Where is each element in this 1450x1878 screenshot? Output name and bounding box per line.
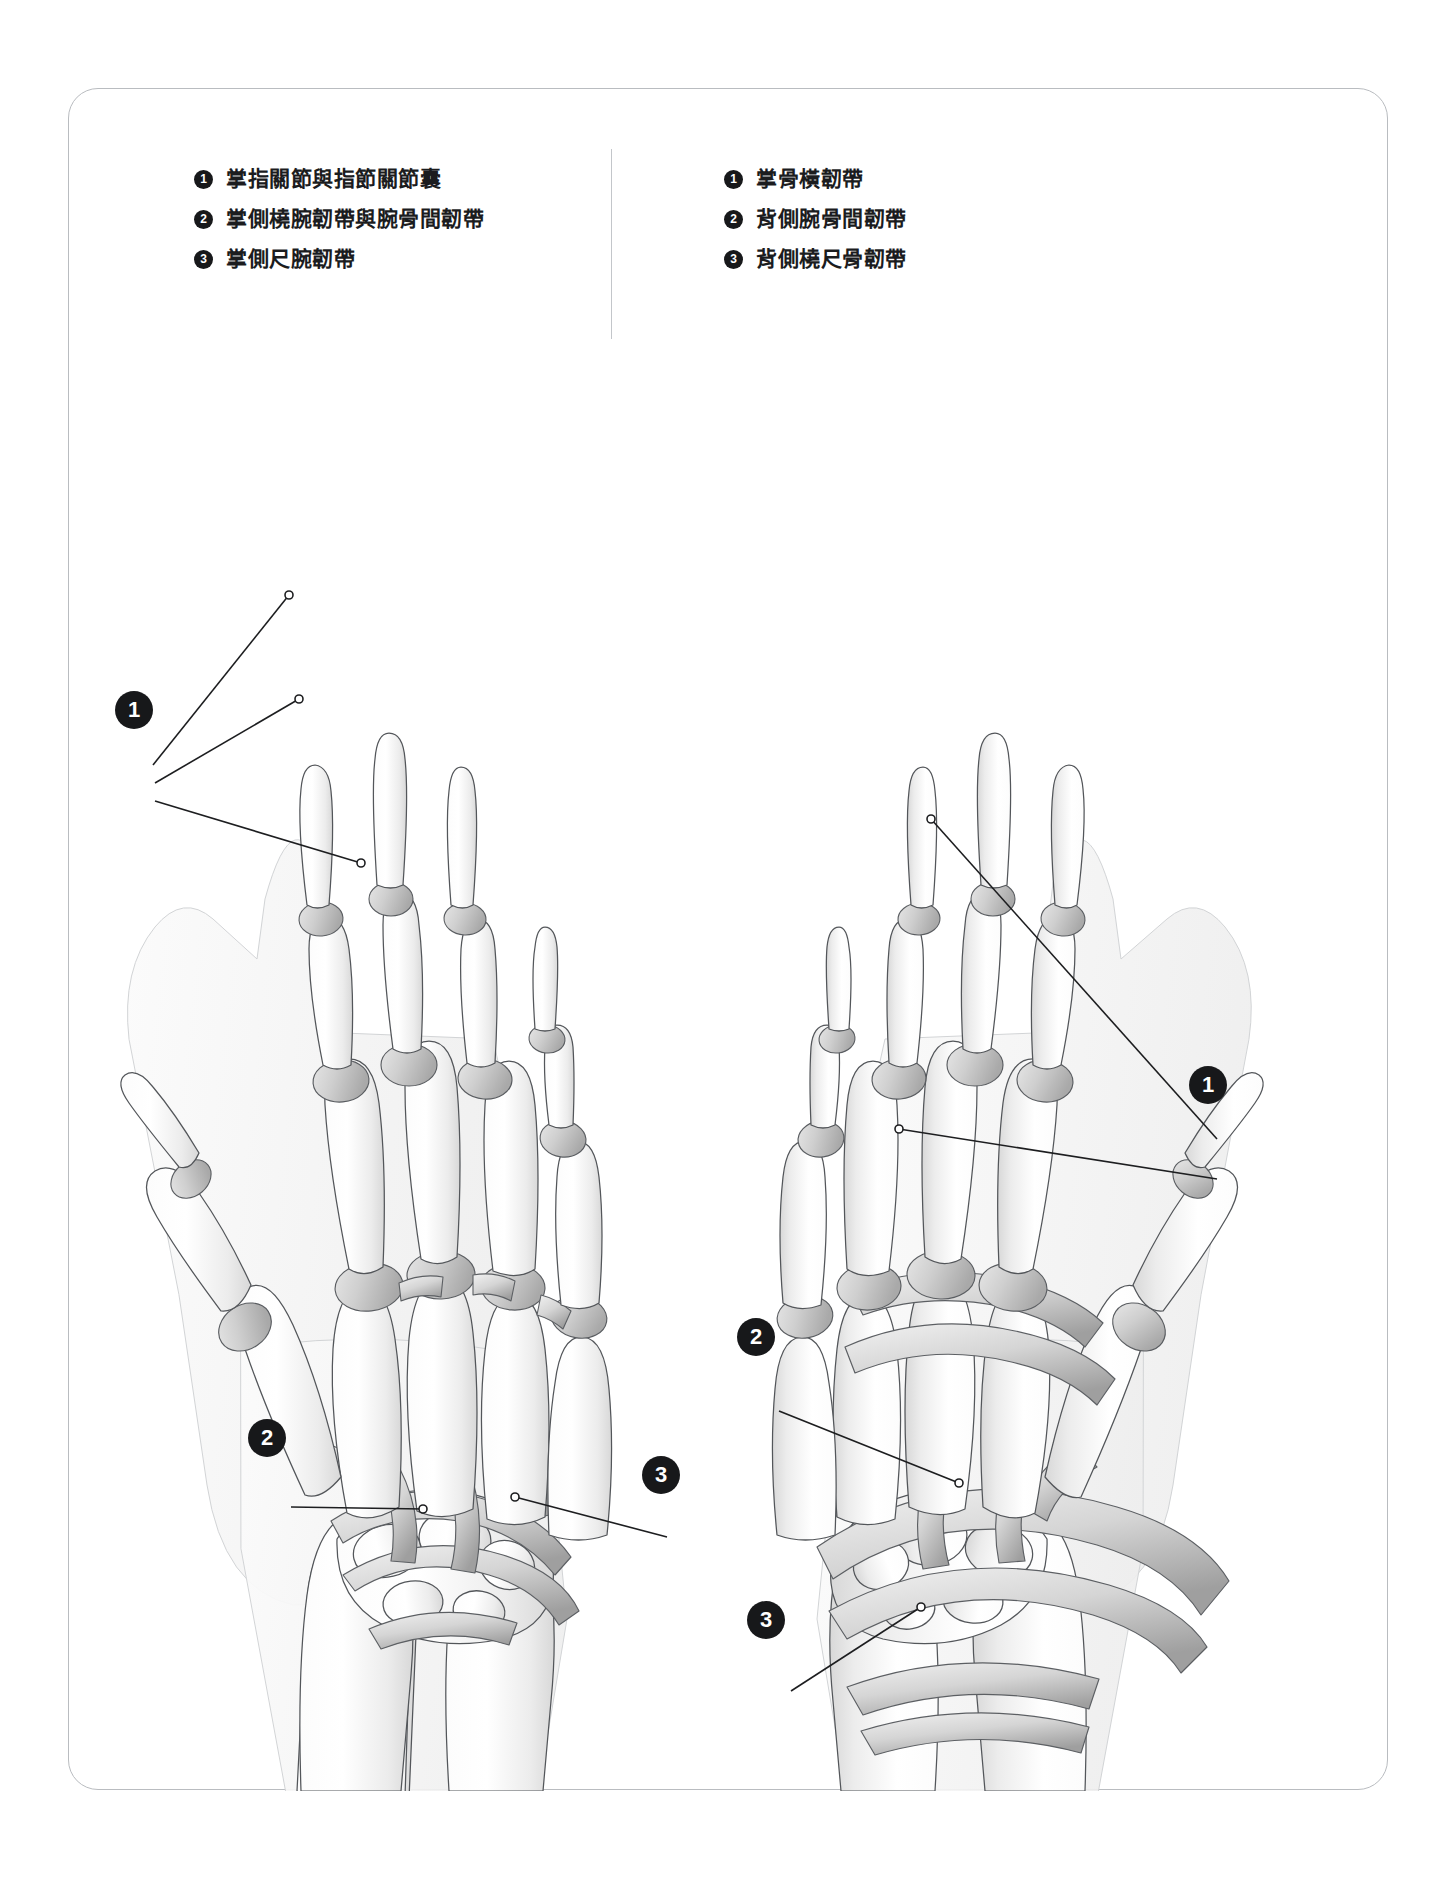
legend-column-dorsal: 1 掌骨橫韌帶 2 背側腕骨間韌帶 3 背側橈尺骨韌帶: [724, 167, 907, 287]
callout-marker-palmar-3[interactable]: 3: [642, 1456, 680, 1494]
legend-bullet-1: 1: [724, 170, 743, 189]
legend-label-palmar-1: 掌指關節與指節關節囊: [226, 167, 441, 192]
legend-bullet-3: 3: [194, 250, 213, 269]
legend-item-palmar-2: 2 掌側橈腕韌帶與腕骨間韌帶: [194, 207, 484, 232]
legend-item-dorsal-1: 1 掌骨橫韌帶: [724, 167, 907, 192]
legend-label-dorsal-2: 背側腕骨間韌帶: [756, 207, 907, 232]
callout-marker-dorsal-3[interactable]: 3: [747, 1601, 785, 1639]
callout-marker-palmar-2[interactable]: 2: [248, 1419, 286, 1457]
legend-item-dorsal-2: 2 背側腕骨間韌帶: [724, 207, 907, 232]
legend-label-dorsal-1: 掌骨橫韌帶: [756, 167, 864, 192]
legend-divider: [611, 149, 612, 339]
right-hand-dorsal-view: [772, 733, 1263, 1791]
legend-item-palmar-3: 3 掌側尺腕韌帶: [194, 247, 484, 272]
legend-bullet-3: 3: [724, 250, 743, 269]
legend-bullet-2: 2: [724, 210, 743, 229]
callout-marker-dorsal-2[interactable]: 2: [737, 1318, 775, 1356]
left-hand-palmar-view: [121, 733, 612, 1791]
legend-item-dorsal-3: 3 背側橈尺骨韌帶: [724, 247, 907, 272]
legend-bullet-1: 1: [194, 170, 213, 189]
legend: 1 掌指關節與指節關節囊 2 掌側橈腕韌帶與腕骨間韌帶 3 掌側尺腕韌帶 1 掌…: [69, 89, 1389, 339]
legend-column-palmar: 1 掌指關節與指節關節囊 2 掌側橈腕韌帶與腕骨間韌帶 3 掌側尺腕韌帶: [194, 167, 484, 287]
legend-label-palmar-3: 掌側尺腕韌帶: [226, 247, 355, 272]
callout-marker-dorsal-1[interactable]: 1: [1189, 1066, 1227, 1104]
figure-area: [69, 339, 1389, 1791]
legend-item-palmar-1: 1 掌指關節與指節關節囊: [194, 167, 484, 192]
legend-bullet-2: 2: [194, 210, 213, 229]
legend-label-palmar-2: 掌側橈腕韌帶與腕骨間韌帶: [226, 207, 484, 232]
anatomical-plate-frame: 1 掌指關節與指節關節囊 2 掌側橈腕韌帶與腕骨間韌帶 3 掌側尺腕韌帶 1 掌…: [68, 88, 1388, 1790]
hand-anatomy-illustrations: [69, 339, 1389, 1791]
legend-label-dorsal-3: 背側橈尺骨韌帶: [756, 247, 907, 272]
callout-marker-palmar-1[interactable]: 1: [115, 691, 153, 729]
